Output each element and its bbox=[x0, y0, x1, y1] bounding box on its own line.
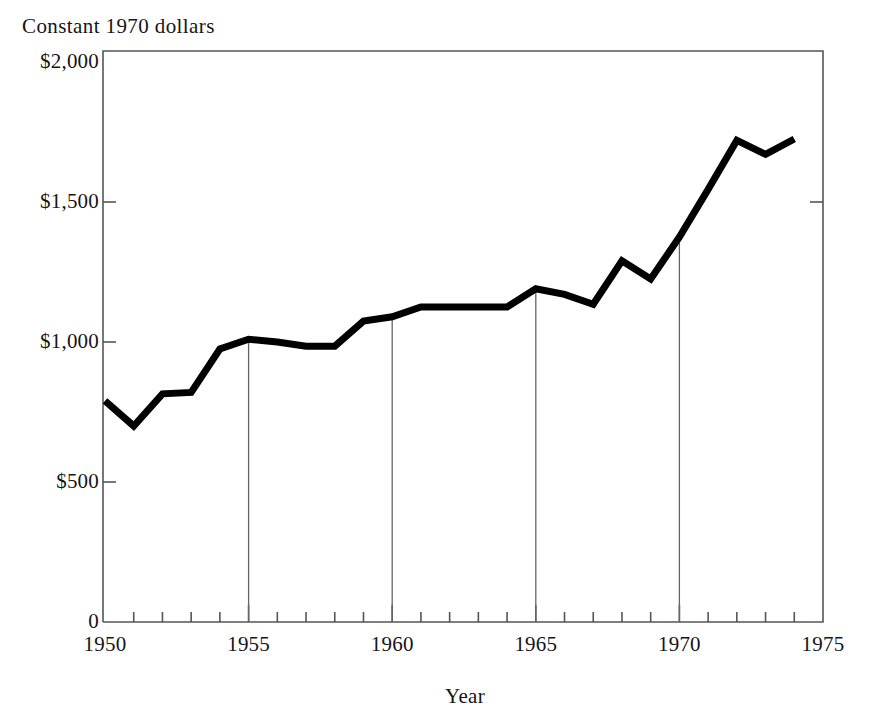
y-axis-tick-label: $500 bbox=[7, 471, 99, 492]
chart-plot-area bbox=[0, 0, 870, 728]
plot-frame bbox=[103, 51, 823, 622]
chart-root: Constant 1970 dollars $2,000$1,500$1,000… bbox=[0, 0, 870, 728]
x-axis-tick-label: 1970 bbox=[658, 633, 701, 655]
data-series-line bbox=[105, 139, 794, 426]
y-axis-tick-label: $1,000 bbox=[7, 331, 99, 352]
y-axis-tick-label: $2,000 bbox=[7, 51, 99, 72]
x-axis-title-text: Year bbox=[445, 684, 485, 708]
plot-frame-path bbox=[103, 51, 823, 622]
x-axis-tick-label: 1965 bbox=[514, 633, 557, 655]
x-axis-tick-label: 1975 bbox=[802, 633, 845, 655]
x-axis-tick-label: 1955 bbox=[227, 633, 270, 655]
drop-lines bbox=[249, 237, 680, 622]
x-axis-tick-label: 1960 bbox=[371, 633, 414, 655]
data-line bbox=[105, 139, 794, 426]
axis-ticks bbox=[103, 202, 823, 622]
y-axis-tick-label: 0 bbox=[7, 611, 99, 632]
x-axis-tick-label: 1950 bbox=[84, 633, 127, 655]
x-axis-title: Year bbox=[0, 684, 870, 709]
y-axis-tick-label: $1,500 bbox=[7, 191, 99, 212]
y-axis-tick-labels: $2,000$1,500$1,000$5000 bbox=[0, 0, 99, 728]
